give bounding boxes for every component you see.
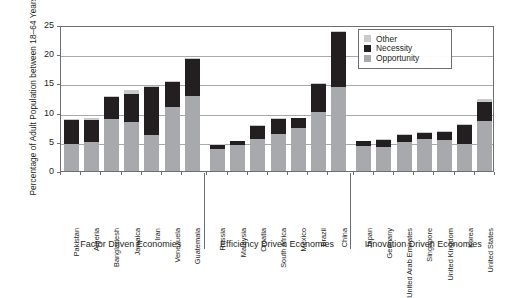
bar-segment-opportunity [477,121,492,171]
bar-segment-necessity [271,119,286,134]
legend-swatch-other-icon [364,35,371,42]
group-label: Efficiency Driven Economies [206,239,347,249]
bar-segment-opportunity [104,119,119,171]
group-label: Innovation Driven Economies [353,239,494,249]
bar-segment-opportunity [230,145,245,171]
legend-item-opportunity: Opportunity [364,54,447,62]
bar [250,125,265,171]
bar-segment-necessity [84,120,99,142]
x-axis-category-labels: PakistanAlgeriaBangladeshJamaicaIranVene… [60,174,494,230]
bar [331,31,346,171]
bar [397,134,412,171]
bar-segment-necessity [397,135,412,142]
bar-segment-necessity [376,140,391,147]
legend-label-opportunity: Opportunity [376,54,419,62]
bar [124,90,139,171]
bar-segment-opportunity [210,149,225,171]
bar-segment-necessity [165,82,180,108]
bar-segment-necessity [331,32,346,87]
bar-segment-necessity [477,102,492,121]
bar [64,119,79,171]
bar-segment-necessity [64,120,79,144]
group-label: Factor Driven Economies [60,239,201,249]
bar-segment-necessity [437,132,452,140]
y-axis-tick-label: 10 [14,109,54,118]
bar-segment-opportunity [437,140,452,171]
legend-swatch-necessity-icon [364,45,371,52]
bar [457,124,472,171]
bar-segment-opportunity [356,146,371,171]
legend-item-necessity: Necessity [364,44,447,52]
group-separator [204,173,205,249]
bar-segment-opportunity [271,134,286,171]
bar-segment-necessity [124,94,139,122]
bar [376,139,391,171]
legend-label-other: Other [376,35,397,43]
bar-segment-necessity [104,97,119,119]
bar [291,118,306,171]
y-axis-tick-label: 20 [14,50,54,59]
group-separator [350,173,351,249]
bar [477,99,492,171]
y-axis-tick-label: 15 [14,79,54,88]
bar [271,118,286,171]
bar [185,58,200,171]
bar-segment-opportunity [124,122,139,171]
legend-label-necessity: Necessity [376,44,412,52]
bar-segment-necessity [311,84,326,112]
bar-segment-opportunity [165,107,180,171]
bar-segment-opportunity [64,144,79,171]
bar [311,83,326,171]
bar-segment-opportunity [331,87,346,171]
y-axis-tick-label: 25 [14,21,54,30]
bar [144,86,159,171]
bar [165,81,180,171]
bar [417,132,432,171]
bar-segment-opportunity [417,139,432,171]
bar [210,144,225,171]
bar-segment-necessity [291,118,306,127]
bar [104,96,119,171]
bar-segment-opportunity [250,139,265,171]
bar-segment-opportunity [311,112,326,171]
bar-segment-necessity [457,125,472,144]
legend-item-other: Other [364,35,447,43]
bar [437,131,452,171]
bar [356,141,371,171]
bar-segment-necessity [250,126,265,139]
bar-segment-opportunity [185,96,200,171]
bar [84,118,99,171]
bar [230,141,245,171]
bar-segment-opportunity [457,144,472,171]
y-axis-tick-label: 0 [14,167,54,176]
bar-segment-opportunity [84,142,99,171]
legend-swatch-opportunity-icon [364,55,371,62]
economy-group-labels: Factor Driven EconomiesEfficiency Driven… [60,231,494,259]
bar-segment-necessity [144,87,159,135]
legend: Other Necessity Opportunity [358,29,452,69]
bar-segment-necessity [185,59,200,96]
y-axis-tick-label: 5 [14,138,54,147]
bar-segment-opportunity [291,128,306,171]
bar-segment-opportunity [397,142,412,171]
bar-segment-opportunity [144,135,159,171]
x-axis-tick [494,172,495,175]
bar-segment-opportunity [376,147,391,171]
